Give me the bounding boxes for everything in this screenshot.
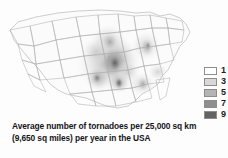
- legend-label-3: 3: [221, 77, 226, 86]
- legend-item: 9: [204, 110, 226, 119]
- caption-line-1: Average number of tornadoes per 25,000 s…: [12, 120, 212, 132]
- legend-label-5: 5: [221, 88, 226, 97]
- legend-item: 3: [204, 77, 226, 86]
- legend-swatch-7: [204, 100, 217, 108]
- legend-swatch-9: [204, 111, 217, 119]
- map-svg: [0, 2, 200, 120]
- figure-caption: Average number of tornadoes per 25,000 s…: [12, 120, 212, 144]
- legend-swatch-5: [204, 89, 217, 97]
- caption-line-2: (9,650 sq miles) per year in the USA: [12, 132, 212, 144]
- legend-label-1: 1: [221, 66, 226, 75]
- legend-swatch-1: [204, 67, 217, 75]
- map-legend: 1 3 5 7 9: [204, 66, 226, 119]
- legend-item: 1: [204, 66, 226, 75]
- tornado-frequency-map-figure: 1 3 5 7 9 Average number of tornadoes pe…: [0, 0, 228, 158]
- legend-item: 5: [204, 88, 226, 97]
- usa-choropleth-map: [0, 2, 200, 120]
- legend-item: 7: [204, 99, 226, 108]
- legend-swatch-3: [204, 78, 217, 86]
- legend-label-7: 7: [221, 99, 226, 108]
- legend-label-9: 9: [221, 110, 226, 119]
